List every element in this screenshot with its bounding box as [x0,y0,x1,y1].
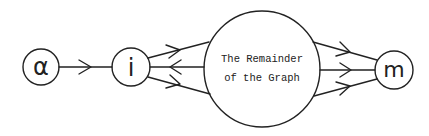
edge-remainder-to-m-lower [314,79,377,96]
edge-alpha-to-i [59,60,112,74]
remainder-label-line2: of the Graph [224,72,300,84]
edge-remainder-to-m-upper [313,42,377,60]
node-m-label: m [383,57,404,82]
edge-i-to-remainder-lower [148,75,210,94]
node-alpha-label: α [33,53,49,81]
node-remainder [204,11,320,127]
edge-i-to-remainder-upper [148,42,209,58]
node-i-label: i [128,54,135,82]
graph-diagram: α i The Remainder of the Graph m [0,0,429,136]
edge-remainder-to-i-middle [150,60,204,74]
diagram-svg: α i The Remainder of the Graph m [0,0,429,136]
remainder-label-line1: The Remainder [221,53,303,65]
edge-remainder-to-m-middle [320,63,375,77]
arrowhead-icon [166,75,180,88]
